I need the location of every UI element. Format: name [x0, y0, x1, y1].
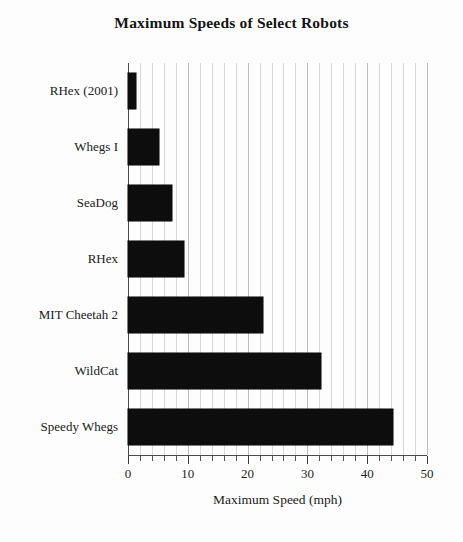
x-tick-major	[307, 456, 308, 464]
x-axis-tick-labels: 01020304050	[128, 466, 427, 486]
x-tick-minor	[200, 456, 201, 461]
x-tick-minor	[379, 456, 380, 461]
bar	[128, 129, 159, 165]
category-label: Whegs I	[74, 139, 118, 155]
x-tick-label: 30	[301, 466, 314, 482]
x-tick-minor	[403, 456, 404, 461]
x-tick-minor	[140, 456, 141, 461]
bar-chart-figure: Maximum Speeds of Select Robots RHex (20…	[0, 0, 463, 542]
x-tick-minor	[176, 456, 177, 461]
x-tick-minor	[295, 456, 296, 461]
x-axis-title: Maximum Speed (mph)	[128, 492, 427, 508]
bar	[128, 353, 321, 389]
x-tick-major	[367, 456, 368, 464]
x-tick-major	[188, 456, 189, 464]
x-tick-label: 50	[421, 466, 434, 482]
x-tick-major	[128, 456, 129, 464]
x-tick-minor	[355, 456, 356, 461]
bar	[128, 409, 393, 445]
plot-area	[128, 63, 427, 455]
bars-layer	[128, 63, 427, 455]
x-tick-minor	[391, 456, 392, 461]
category-label: RHex	[88, 251, 118, 267]
x-tick-label: 0	[125, 466, 132, 482]
x-tick-minor	[415, 456, 416, 461]
x-tick-label: 10	[181, 466, 194, 482]
x-tick-minor	[331, 456, 332, 461]
x-tick-minor	[283, 456, 284, 461]
x-tick-minor	[319, 456, 320, 461]
category-label: MIT Cheetah 2	[39, 307, 118, 323]
chart-title: Maximum Speeds of Select Robots	[0, 14, 463, 32]
x-tick-minor	[164, 456, 165, 461]
bar	[128, 241, 184, 277]
category-label: SeaDog	[77, 195, 118, 211]
x-tick-minor	[343, 456, 344, 461]
gridline-major	[427, 63, 428, 455]
bar	[128, 185, 172, 221]
bar	[128, 73, 136, 109]
x-tick-minor	[152, 456, 153, 461]
x-axis-ticks	[128, 456, 427, 465]
category-label: WildCat	[74, 363, 118, 379]
x-tick-major	[427, 456, 428, 464]
x-tick-minor	[272, 456, 273, 461]
x-tick-minor	[260, 456, 261, 461]
x-tick-label: 40	[361, 466, 374, 482]
x-tick-minor	[212, 456, 213, 461]
category-axis-labels: RHex (2001)Whegs ISeaDogRHexMIT Cheetah …	[0, 63, 124, 455]
x-tick-minor	[224, 456, 225, 461]
x-tick-major	[248, 456, 249, 464]
x-tick-label: 20	[241, 466, 254, 482]
category-label: Speedy Whegs	[41, 419, 118, 435]
category-label: RHex (2001)	[50, 83, 118, 99]
bar	[128, 297, 263, 333]
x-tick-minor	[236, 456, 237, 461]
